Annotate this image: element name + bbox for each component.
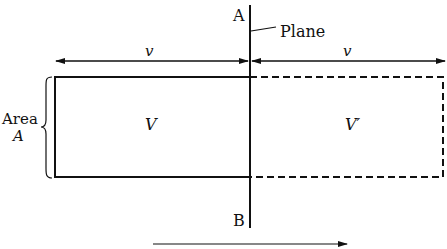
plane-leader [251, 27, 276, 31]
left-velocity-label: v [145, 42, 154, 60]
right-velocity-label: v [343, 42, 352, 60]
point-b-label: B [233, 211, 245, 230]
area-brace-icon [41, 77, 52, 178]
area-symbol-label: A [11, 127, 24, 145]
volume-v-label: V [145, 115, 158, 134]
area-label: Area [1, 110, 38, 128]
volume-v-prime-label: V′ [345, 115, 361, 134]
plane-label: Plane [280, 22, 325, 41]
flux-diagram: A B Plane v v V V′ Area A [0, 0, 447, 249]
point-a-label: A [232, 6, 245, 25]
